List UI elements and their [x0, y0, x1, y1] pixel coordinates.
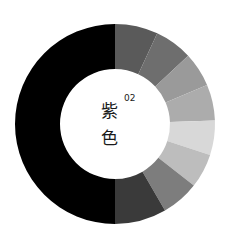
- ring-left-half: [15, 24, 115, 224]
- label-char-color: 色: [101, 124, 118, 149]
- label-char-purple: 紫: [101, 97, 118, 122]
- label-number: 02: [124, 93, 135, 103]
